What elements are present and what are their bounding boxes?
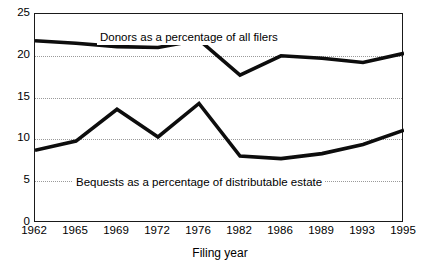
x-tick-label: 1982 bbox=[217, 225, 261, 237]
gridline bbox=[35, 139, 402, 140]
plot-area: Donors as a percentage of all filers Beq… bbox=[34, 13, 403, 222]
x-tick-label: 1993 bbox=[340, 225, 384, 237]
y-tick-label: 5 bbox=[4, 174, 30, 186]
line-series-donors bbox=[35, 40, 404, 75]
gridline bbox=[35, 56, 402, 57]
y-tick-label: 10 bbox=[4, 133, 30, 145]
series-label-donors: Donors as a percentage of all filers bbox=[97, 31, 281, 45]
x-tick-label: 1995 bbox=[381, 225, 425, 237]
x-tick-label: 1972 bbox=[135, 225, 179, 237]
chart-figure: 0510152025 Donors as a percentage of all… bbox=[0, 0, 440, 272]
x-tick-label: 1965 bbox=[53, 225, 97, 237]
series-layer bbox=[35, 14, 404, 223]
x-axis-tick-labels: 1962196519691972197619821986198919931995 bbox=[34, 225, 403, 241]
y-tick-label: 15 bbox=[4, 91, 30, 103]
x-axis-title: Filing year bbox=[0, 247, 440, 259]
y-tick-label: 20 bbox=[4, 49, 30, 61]
x-tick-label: 1962 bbox=[12, 225, 56, 237]
x-tick-label: 1969 bbox=[94, 225, 138, 237]
line-series-bequests bbox=[35, 103, 404, 158]
series-label-bequests: Bequests as a percentage of distributabl… bbox=[73, 176, 325, 190]
x-tick-label: 1976 bbox=[176, 225, 220, 237]
x-tick-label: 1986 bbox=[258, 225, 302, 237]
y-axis-tick-labels: 0510152025 bbox=[0, 13, 30, 222]
y-tick-label: 25 bbox=[4, 7, 30, 19]
x-tick-label: 1989 bbox=[299, 225, 343, 237]
gridline bbox=[35, 98, 402, 99]
